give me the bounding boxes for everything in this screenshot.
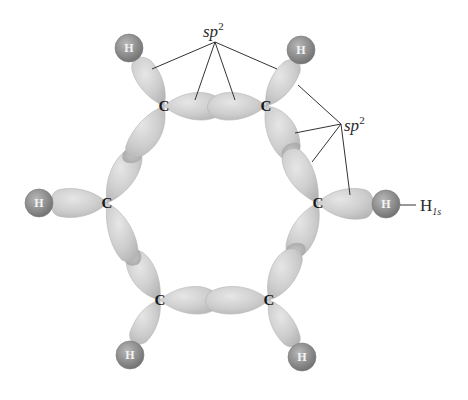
svg-text:H: H	[124, 41, 134, 55]
hydrogen-atom-h3: H	[372, 190, 400, 218]
svg-text:H: H	[381, 197, 391, 211]
cc-bonds	[106, 92, 319, 314]
carbon-atom-c2: C	[261, 98, 272, 114]
h1s-label: H1s	[400, 196, 441, 217]
bond-c4-c5	[160, 286, 269, 314]
hydrogen-atom-h1: H	[115, 34, 143, 62]
svg-text:H: H	[34, 196, 44, 210]
carbon-atom-c6: C	[102, 195, 113, 211]
svg-text:H1s: H1s	[420, 196, 441, 217]
bond-c5-c6	[106, 203, 160, 300]
svg-text:H: H	[296, 43, 306, 57]
svg-text:H: H	[125, 348, 135, 362]
carbon-atom-c3: C	[313, 195, 324, 211]
bond-c2-c3	[265, 106, 318, 203]
lobe-c6-h6	[51, 189, 108, 218]
bond-c6-c1	[106, 106, 165, 203]
carbon-atom-c1: C	[159, 98, 170, 114]
sp2-label-top: sp2	[203, 20, 224, 41]
svg-text:H: H	[297, 350, 307, 364]
hydrogen-atom-h6: H	[25, 189, 53, 217]
carbon-atom-c4: C	[264, 292, 275, 308]
sp2-top-pointers	[152, 42, 277, 100]
hydrogen-atom-h2: H	[287, 36, 315, 64]
benzene-orbital-diagram: H H H H H H C C C C C C	[0, 0, 468, 400]
bond-c3-c4	[268, 203, 320, 300]
sp2-label-right: sp2	[344, 114, 365, 135]
hydrogen-atom-h5: H	[116, 341, 144, 369]
hydrogen-atom-h4: H	[288, 343, 316, 371]
bond-c1-c2	[164, 92, 266, 120]
lobe-c3-h3	[318, 189, 374, 220]
carbon-atom-c5: C	[155, 292, 166, 308]
